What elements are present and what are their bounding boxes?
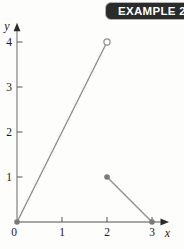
y-axis-arrowhead-icon xyxy=(14,23,21,32)
x-axis-label: x xyxy=(164,226,171,240)
y-axis-label: y xyxy=(3,19,10,33)
origin-label: 0 xyxy=(11,226,17,238)
y-tick-label: 2 xyxy=(6,126,12,138)
x-axis-arrowhead-icon xyxy=(161,219,170,226)
x-tick-label: 1 xyxy=(59,226,65,238)
graph-svg: 12312340xy xyxy=(0,0,184,249)
x-tick-label: 2 xyxy=(104,226,110,238)
y-tick-label: 4 xyxy=(6,36,12,48)
segment-line xyxy=(107,177,152,222)
segment-line xyxy=(17,42,107,222)
filled-point-marker xyxy=(104,174,110,180)
filled-point-marker xyxy=(149,219,155,225)
y-tick-label: 3 xyxy=(6,81,12,93)
x-tick-label: 3 xyxy=(149,226,155,238)
figure-container: EXAMPLE 2 12312340xy xyxy=(0,0,184,249)
filled-point-marker xyxy=(14,219,20,225)
y-tick-label: 1 xyxy=(6,171,12,183)
open-point-marker xyxy=(104,39,110,45)
